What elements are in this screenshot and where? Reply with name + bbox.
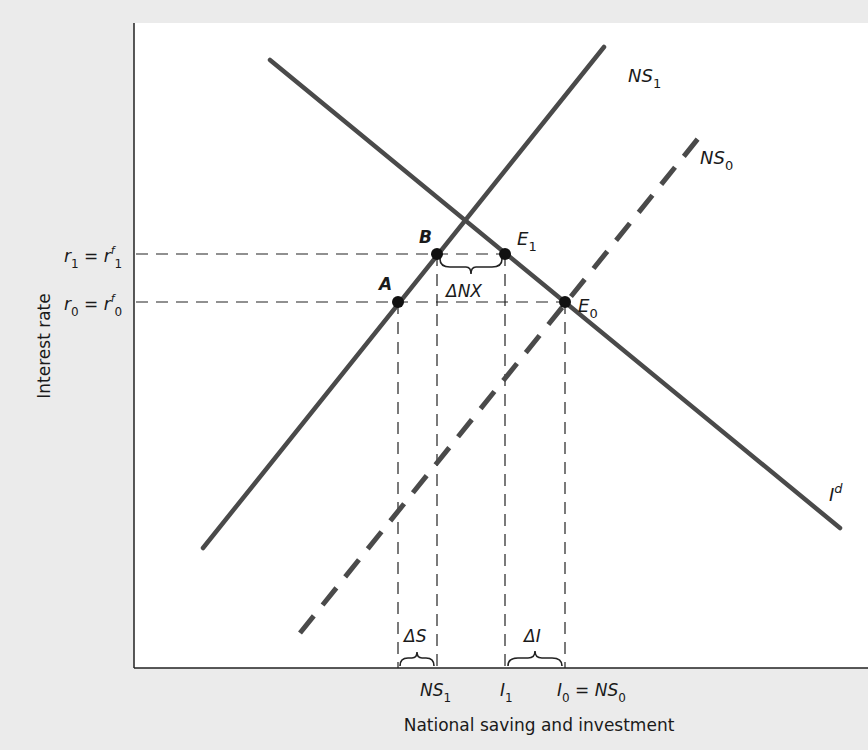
x-tick-i1: I1 [500,680,513,705]
point-a [392,296,404,308]
delta-nx-label: ΔNX [444,281,482,301]
x-tick-ns1: NS1 [420,680,451,705]
point-b [431,248,443,260]
point-e0 [559,296,571,308]
delta-s-label: ΔS [402,626,427,646]
y-tick-r1: r1 = rf1 [64,244,122,271]
x-tick-i0-ns0: I0 = NS0 [557,680,626,705]
diagram: NS1 NS0 Id A B E1 E0 ΔNX ΔS ΔI r1 = rf1 … [0,0,868,750]
point-e1 [499,248,511,260]
point-b-label: B [419,227,432,247]
plot-area [134,23,868,668]
point-a-label: A [377,274,392,294]
delta-i-label: ΔI [522,626,541,646]
x-axis-title: National saving and investment [404,715,675,735]
y-axis-title: Interest rate [34,293,54,398]
y-tick-r0: r0 = rf0 [64,292,122,319]
